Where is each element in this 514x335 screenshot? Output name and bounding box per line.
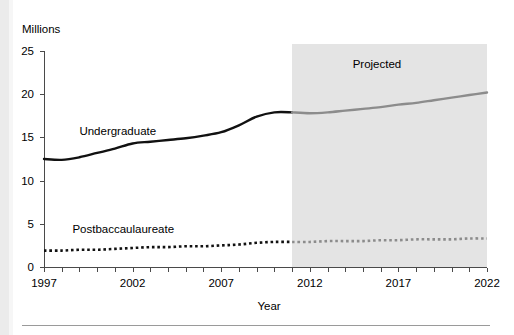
y-tick-label: 20 (12, 88, 34, 100)
footer-divider (22, 325, 490, 326)
x-tick (292, 268, 293, 272)
x-axis-title-text: Year (257, 300, 280, 312)
series-path-actual-postbaccaulaureate (44, 242, 292, 251)
y-tick-label: 0 (12, 261, 34, 273)
x-tick (79, 268, 80, 272)
x-tick (452, 268, 453, 272)
x-tick (310, 268, 311, 272)
plot-area: Projected Undergraduate Postbaccaulaurea… (44, 51, 487, 267)
x-tick (487, 268, 488, 272)
x-tick (274, 268, 275, 272)
page-gutter-strip (0, 0, 9, 335)
y-tick-label: 15 (12, 131, 34, 143)
x-tick-label: 2012 (290, 277, 330, 289)
x-tick (97, 268, 98, 272)
x-tick (168, 268, 169, 272)
x-tick (257, 268, 258, 272)
x-tick (44, 268, 45, 272)
x-tick-label: 2002 (113, 277, 153, 289)
series-label-undergraduate: Undergraduate (79, 125, 156, 138)
x-tick-label: 2017 (378, 277, 418, 289)
x-tick (150, 268, 151, 272)
x-tick (363, 268, 364, 272)
x-tick (345, 268, 346, 272)
series-label-postbaccalaureate: Postbaccaulaureate (72, 223, 174, 236)
y-tick-label: 25 (12, 45, 34, 57)
series-path-projected-postbaccaulaureate (292, 238, 487, 242)
x-tick (398, 268, 399, 272)
x-tick (239, 268, 240, 272)
x-tick (133, 268, 134, 272)
x-tick (328, 268, 329, 272)
x-axis-title: Year (0, 300, 514, 313)
x-tick (115, 268, 116, 272)
x-tick (434, 268, 435, 272)
x-tick (469, 268, 470, 272)
series-path-projected-undergraduate (292, 92, 487, 113)
y-tick-label: 5 (12, 218, 34, 230)
x-tick (381, 268, 382, 272)
x-tick-label: 2007 (201, 277, 241, 289)
x-tick (186, 268, 187, 272)
x-tick-label: 1997 (24, 277, 64, 289)
y-tick-label: 10 (12, 175, 34, 187)
x-tick (416, 268, 417, 272)
x-axis-line (44, 267, 487, 268)
enrollment-projection-figure: Millions Projected Undergraduate Postbac… (0, 0, 514, 335)
y-axis-title: Millions (22, 23, 60, 36)
x-tick (62, 268, 63, 272)
x-tick (221, 268, 222, 272)
x-tick-label: 2022 (467, 277, 507, 289)
x-tick (203, 268, 204, 272)
